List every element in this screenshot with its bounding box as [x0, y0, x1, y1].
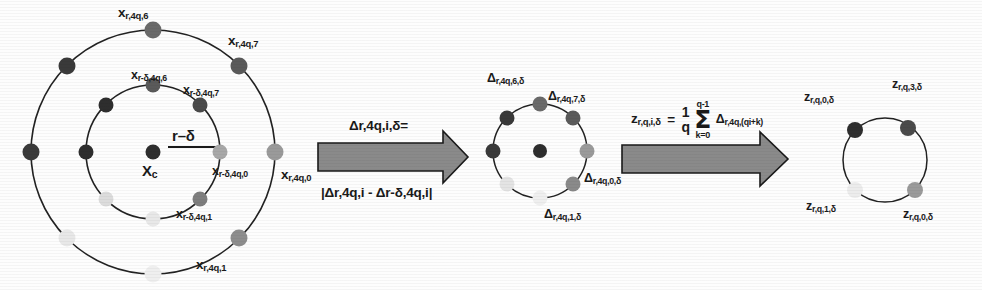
- middle-dot-1: [566, 177, 581, 192]
- label-z-rq0d-top: zr,q,0,δ: [804, 91, 834, 105]
- label-delta-r4q0d: Δr,4q,0,δ: [584, 172, 621, 186]
- label-inner-x-rd4q6: xr-δ,4q,6: [131, 69, 167, 83]
- outer-dot-7: [231, 58, 248, 75]
- label-delta-r4q7d: Δr,4q,7,δ: [548, 90, 585, 104]
- middle-dot-2: [533, 191, 548, 206]
- label-inner-x-rd4q0: xr-δ,4q,0: [212, 165, 248, 179]
- label-inner-x-rd4q1: xr-δ,4q,1: [176, 208, 212, 222]
- outer-dot-5: [59, 58, 76, 75]
- inner-dot-2: [146, 212, 161, 227]
- arrow-1-formula-top: Δr,4q,i,δ=: [349, 119, 408, 133]
- label-delta-r4q1d: Δr,4q,1,δ: [544, 208, 581, 222]
- label-inner-x-rd4q7: xr-δ,4q,7: [183, 84, 219, 98]
- formula-equals: =: [667, 113, 675, 127]
- right-dot-1: [847, 182, 863, 198]
- middle-dot-7: [566, 111, 581, 126]
- middle-panel-group: [486, 97, 595, 206]
- label-outer-x-r4q6: xr,4q,6: [118, 6, 148, 21]
- middle-center-dot: [533, 144, 547, 158]
- diagram-canvas: [0, 0, 982, 290]
- label-outer-x-r4q0: xr,4q,0: [281, 168, 311, 183]
- arrow-2-formula: zr,q,i,δ = 1 q q-1 Σ k=0 Δr,4q,(qi+k): [631, 100, 763, 140]
- arrow-1-formula-bottom: |Δr,4q,i - Δr-δ,4q,i|: [321, 186, 432, 200]
- middle-dot-0: [580, 144, 595, 159]
- inner-dot-7: [193, 98, 208, 113]
- inner-dot-1: [193, 192, 208, 207]
- inner-dot-3: [99, 192, 114, 207]
- right-dot-2: [847, 122, 863, 138]
- formula-lhs: zr,q,i,δ: [631, 112, 661, 127]
- label-delta-r4q6d: Δr,4q,6,δ: [487, 72, 524, 86]
- outer-dot-4: [23, 144, 40, 161]
- label-outer-x-r4q1: xr,4q,1: [196, 258, 226, 273]
- outer-dot-2: [145, 266, 162, 283]
- figure-container: xr,4q,0 xr,4q,1 xr,4q,6 xr,4q,7 xr-δ,4q,…: [0, 0, 982, 290]
- right-dot-0: [907, 182, 923, 198]
- formula-fraction: 1 q: [681, 105, 689, 134]
- inner-dot-4: [79, 145, 94, 160]
- radius-label: r–δ: [172, 128, 195, 143]
- label-outer-x-r4q7: xr,4q,7: [228, 34, 258, 49]
- left-panel-group: [23, 22, 284, 283]
- arrow-2-group: [622, 132, 788, 186]
- middle-dot-6: [533, 97, 548, 112]
- middle-dot-5: [500, 111, 515, 126]
- formula-operand: Δr,4q,(qi+k): [716, 113, 763, 127]
- arrow-1-group: [318, 131, 468, 183]
- label-z-rq3d: zr,q,3,δ: [892, 78, 922, 92]
- outer-dot-3: [59, 230, 76, 247]
- right-dot-3: [900, 120, 916, 136]
- arrow-2-shape: [622, 132, 788, 186]
- center-dot: [146, 145, 161, 160]
- right-panel-group: [843, 118, 927, 202]
- middle-dot-4: [486, 144, 501, 159]
- center-point-label: Xc: [142, 163, 157, 180]
- label-z-rq1d: zr,q,1,δ: [806, 200, 836, 214]
- outer-dot-0: [267, 144, 284, 161]
- outer-dot-1: [231, 230, 248, 247]
- middle-dot-3: [500, 177, 515, 192]
- summation-symbol: q-1 Σ k=0: [694, 100, 711, 140]
- outer-dot-6: [145, 22, 162, 39]
- inner-dot-0: [213, 145, 228, 160]
- arrow-1-shape: [318, 131, 468, 183]
- label-z-rq0d-bottom: zr,q,0,δ: [903, 208, 933, 222]
- inner-dot-5: [99, 98, 114, 113]
